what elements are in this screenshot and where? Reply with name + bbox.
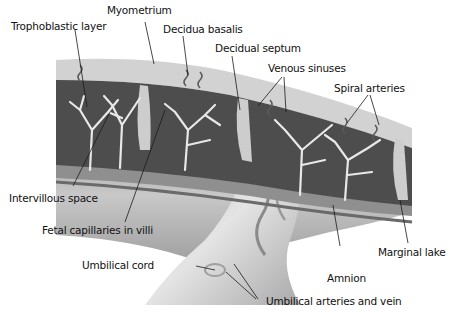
label-spiral-arteries: Spiral arteries	[334, 82, 405, 94]
label-trophoblastic-layer: Trophoblastic layer	[11, 20, 106, 32]
label-decidual-septum: Decidual septum	[215, 42, 301, 54]
label-umbilical-cord: Umbilical cord	[82, 259, 154, 271]
label-myometrium: Myometrium	[107, 4, 172, 16]
label-umbilical-vessels: Umbilical arteries and vein	[266, 295, 402, 307]
label-venous-sinuses: Venous sinuses	[268, 62, 346, 74]
label-amnion: Amnion	[327, 272, 366, 284]
label-fetal-capillaries: Fetal capillaries in villi	[42, 224, 153, 236]
label-marginal-lake: Marginal lake	[378, 246, 445, 258]
label-intervillous-space: Intervillous space	[9, 192, 98, 204]
label-decidua-basalis: Decidua basalis	[163, 23, 243, 35]
